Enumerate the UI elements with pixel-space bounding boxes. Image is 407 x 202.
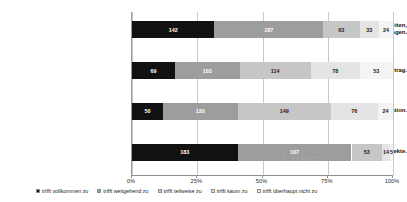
bar-segment[interactable]: 33 (360, 21, 379, 38)
legend-label: trifft kaum zu (217, 188, 248, 194)
bar-row: 501201497624 (132, 103, 392, 120)
stacked-bar-chart: ...meine Fähigkeiten, meine eigene Arbei… (0, 0, 407, 202)
x-tick-label: 50% (256, 178, 268, 184)
legend-label: trifft weitgehend zu (103, 188, 148, 194)
legend-swatch-icon (36, 189, 40, 193)
bar-segment[interactable]: 24 (379, 21, 393, 38)
bar-segment[interactable]: 78 (311, 62, 360, 79)
bar-segment[interactable]: 53 (360, 62, 393, 79)
bar-segment[interactable]: 50 (132, 103, 163, 120)
bar-segment[interactable]: 103 (175, 62, 239, 79)
x-tick-label: 100% (385, 178, 400, 184)
bar-segment[interactable]: 142 (132, 21, 214, 38)
chart-legend: trifft vollkommen zutrifft weitgehend zu… (36, 188, 317, 194)
legend-item[interactable]: trifft weitgehend zu (97, 188, 148, 194)
bar-segment[interactable]: 197 (238, 144, 352, 161)
bar-segment[interactable]: 76 (331, 103, 378, 120)
bar-segment[interactable]: 149 (238, 103, 331, 120)
legend-label: trifft vollkommen zu (42, 188, 88, 194)
plot-area: 1421876333246910311478535012014976241831… (131, 12, 392, 175)
legend-item[interactable]: trifft überhaupt nicht zu (257, 188, 318, 194)
legend-swatch-icon (158, 189, 162, 193)
bar-row: 18319753145 (132, 144, 392, 161)
bar-segment[interactable]: 69 (132, 62, 175, 79)
bar-segment[interactable]: 187 (214, 21, 323, 38)
bar-row: 142187633324 (132, 21, 392, 38)
bar-segment[interactable]: 63 (323, 21, 360, 38)
bar-segment[interactable]: 120 (163, 103, 238, 120)
bar-segment[interactable]: 14 (382, 144, 390, 161)
bar-segment[interactable]: 5 (390, 144, 393, 161)
bar-segment[interactable]: 114 (240, 62, 311, 79)
x-tick-label: 25% (191, 178, 203, 184)
gridline-100 (393, 12, 394, 175)
legend-swatch-icon (211, 189, 215, 193)
bar-row: 691031147853 (132, 62, 392, 79)
legend-item[interactable]: trifft teilweise zu (158, 188, 202, 194)
legend-item[interactable]: trifft vollkommen zu (36, 188, 88, 194)
legend-swatch-icon (257, 189, 261, 193)
bar-segment[interactable]: 53 (352, 144, 383, 161)
legend-swatch-icon (97, 189, 101, 193)
bar-segment[interactable]: 183 (132, 144, 238, 161)
bar-segment[interactable]: 24 (378, 103, 393, 120)
legend-item[interactable]: trifft kaum zu (211, 188, 248, 194)
x-tick-label: 75% (321, 178, 333, 184)
legend-label: trifft überhaupt nicht zu (263, 188, 318, 194)
legend-label: trifft teilweise zu (164, 188, 202, 194)
x-tick-label: 0% (127, 178, 135, 184)
